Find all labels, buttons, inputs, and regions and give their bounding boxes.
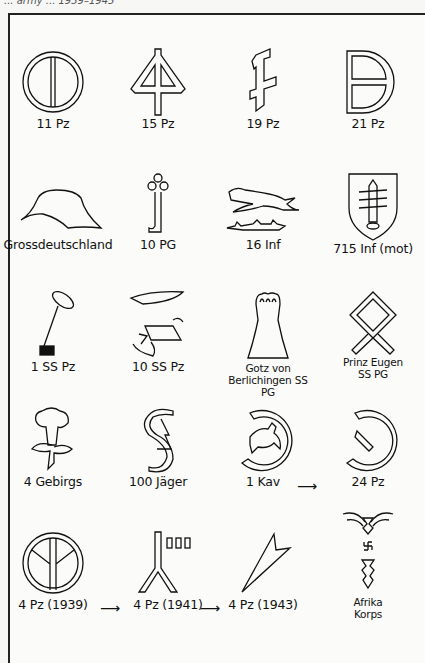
- key-icon: [123, 172, 193, 238]
- emblem-label: 4 Gebirgs: [3, 475, 103, 489]
- emblem-1sspz: 1 SS Pz: [3, 290, 103, 374]
- emblem-prinz-eugen: Prinz Eugen SS PG: [318, 290, 425, 380]
- emblem-label: 16 Inf: [213, 238, 313, 252]
- crescent-icon: [333, 405, 403, 475]
- emblem-1kav: 1 Kav: [213, 405, 313, 489]
- emblem-label: 21 Pz: [318, 117, 418, 131]
- odal-rune-icon: [338, 290, 408, 356]
- emblem-label: 10 SS Pz: [108, 360, 208, 374]
- emblem-24pz: 24 Pz: [318, 405, 418, 489]
- circle-bar-icon: [18, 47, 88, 117]
- horse-rider-crescent-icon: [228, 405, 298, 475]
- emblem-label: 4 Pz (1939): [3, 598, 103, 612]
- helmet-icon: [13, 178, 103, 238]
- emblem-100jager: 100 Jäger: [108, 405, 208, 489]
- skeleton-key-icon: [18, 290, 88, 360]
- emblem-label: 4 Pz (1943): [213, 598, 313, 612]
- emblem-label: 11 Pz: [3, 117, 103, 131]
- palm-swastika-icon: [333, 508, 403, 596]
- arrowhead-icon: [228, 528, 298, 598]
- emblem-4pz-1939: 4 Pz (1939): [3, 528, 103, 612]
- emblem-afrika-korps: Afrika Korps: [318, 508, 418, 620]
- wolfsangel-icon: [228, 47, 298, 117]
- emblem-label: 24 Pz: [318, 475, 418, 489]
- emblem-gotz-von-berlichingen: Gotz von Berlichingen SS PG: [213, 290, 323, 398]
- emblem-grossdeutschland: Grossdeutschland: [3, 178, 113, 252]
- d-rune-icon: [333, 47, 403, 117]
- y-rune-bars-icon: [133, 528, 203, 598]
- shield-sword-icon: [343, 170, 403, 242]
- emblem-label: 1 SS Pz: [3, 360, 103, 374]
- emblem-label: 100 Jäger: [108, 475, 208, 489]
- s-tree-icon: [123, 405, 193, 475]
- triangle-rune-icon: [123, 47, 193, 117]
- emblem-4pz-1943: 4 Pz (1943): [213, 528, 313, 612]
- frundsberg-icon: [123, 290, 193, 360]
- gentian-flower-icon: [18, 405, 88, 475]
- emblem-16inf: 16 Inf: [213, 180, 313, 252]
- emblem-label: Afrika Korps: [343, 596, 393, 620]
- emblem-21pz: 21 Pz: [318, 47, 418, 131]
- arrow-1kav-to-24pz: ⟶: [297, 478, 317, 494]
- y-rune-circle-icon: [18, 528, 88, 598]
- emblem-label: Grossdeutschland: [3, 238, 113, 252]
- emblem-label: 15 Pz: [108, 117, 208, 131]
- emblem-label: 10 PG: [108, 238, 208, 252]
- emblem-4gebirgs: 4 Gebirgs: [3, 405, 103, 489]
- emblem-label: 715 Inf (mot): [318, 242, 425, 256]
- emblem-19pz: 19 Pz: [213, 47, 313, 131]
- emblem-10pg: 10 PG: [108, 172, 208, 252]
- running-wolf-icon: [223, 180, 303, 238]
- emblem-715inf: 715 Inf (mot): [318, 170, 425, 256]
- emblem-11pz: 11 Pz: [3, 47, 103, 131]
- emblem-label: Prinz Eugen SS PG: [338, 356, 408, 380]
- iron-fist-icon: [238, 290, 298, 362]
- emblem-10sspz: 10 SS Pz: [108, 290, 208, 374]
- emblem-label: 19 Pz: [213, 117, 313, 131]
- page-header: ... army ... 1939–1945: [4, 0, 114, 6]
- emblem-15pz: 15 Pz: [108, 47, 208, 131]
- emblem-label: Gotz von Berlichingen SS PG: [228, 362, 308, 398]
